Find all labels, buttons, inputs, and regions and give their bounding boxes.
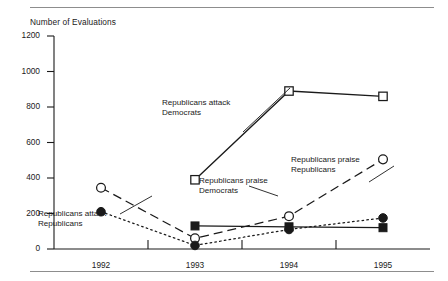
y-tick-label: 0	[0, 243, 40, 253]
annotation-republicans-praise-democrats: Republicans praise Democrats	[199, 176, 268, 197]
data-point-marker	[285, 212, 294, 221]
annotation-republicans-praise-republicans: Republicans praise Republicans	[291, 155, 360, 176]
data-point-marker	[191, 222, 199, 230]
y-tick-label: 200	[0, 208, 40, 218]
data-point-marker	[285, 223, 293, 231]
data-point-marker	[191, 176, 199, 184]
chart-canvas	[0, 0, 448, 281]
x-tick-label: 1995	[353, 260, 413, 270]
y-tick-label: 400	[0, 172, 40, 182]
y-tick-label: 1000	[0, 66, 40, 76]
annotation-leader-line	[243, 88, 290, 132]
x-axis-ticks	[148, 240, 336, 249]
annotation-leader-line	[120, 196, 152, 214]
data-point-marker	[379, 92, 387, 100]
chart-figure: Number of Evaluations 020040060080010001…	[0, 0, 448, 281]
data-point-marker	[379, 214, 388, 223]
data-point-marker	[97, 183, 106, 192]
y-tick-label: 1200	[0, 30, 40, 40]
series-group	[191, 222, 387, 232]
y-tick-label: 600	[0, 137, 40, 147]
annotation-republicans-attack-democrats: Republicans attack Democrats	[162, 98, 230, 119]
data-point-marker	[285, 87, 293, 95]
data-point-marker	[379, 224, 387, 232]
data-point-marker	[191, 241, 200, 250]
x-tick-label: 1992	[71, 260, 131, 270]
x-tick-label: 1993	[165, 260, 225, 270]
annotation-republicans-attack-republicans: Republicans attack Republicans	[38, 209, 106, 230]
annotation-leader-line	[369, 166, 394, 182]
x-tick-label: 1994	[259, 260, 319, 270]
data-point-marker	[379, 155, 388, 164]
y-tick-label: 800	[0, 101, 40, 111]
